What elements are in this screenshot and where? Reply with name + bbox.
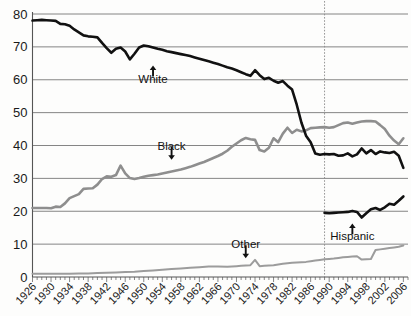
annotation-label: White bbox=[138, 73, 167, 85]
y-tick-label: 30 bbox=[13, 171, 27, 186]
chart-container: 01020304050607080 1926193019341938194219… bbox=[0, 0, 411, 316]
y-tick-label: 10 bbox=[13, 237, 27, 252]
annotation-label: Hispanic bbox=[330, 230, 374, 242]
annotation-label: Other bbox=[231, 238, 260, 250]
y-tick-label: 50 bbox=[13, 105, 27, 120]
y-tick-label: 60 bbox=[13, 72, 27, 87]
chart-background bbox=[0, 0, 411, 316]
y-tick-label: 40 bbox=[13, 138, 27, 153]
annotation-label: Black bbox=[158, 140, 186, 152]
y-tick-label: 20 bbox=[13, 204, 27, 219]
line-chart: 01020304050607080 1926193019341938194219… bbox=[0, 0, 411, 316]
y-tick-label: 70 bbox=[13, 39, 27, 54]
y-axis-tick-labels: 01020304050607080 bbox=[13, 7, 27, 285]
y-tick-label: 80 bbox=[13, 7, 27, 22]
